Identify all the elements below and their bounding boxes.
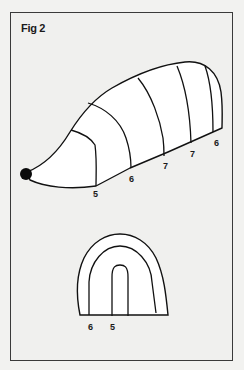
hedgehog-nose [20,168,32,180]
side-label-6b: 6 [214,138,219,148]
hedgehog-outline [27,62,222,188]
figure-diagram: 5 6 7 7 6 6 5 [0,0,244,370]
side-label-7b: 7 [190,149,195,159]
side-label-5: 5 [93,189,98,199]
front-label-5: 5 [110,322,115,332]
front-label-6: 6 [88,322,93,332]
side-label-6: 6 [129,174,134,184]
side-label-7a: 7 [163,161,168,171]
